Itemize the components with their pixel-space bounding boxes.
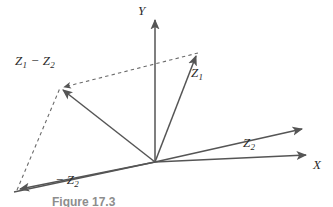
figure-caption: Figure 17.3: [52, 196, 212, 207]
vector-z1-line: [155, 56, 196, 162]
vector-z1-minus-z2-line: [63, 90, 155, 162]
vector-z1-minus-z2-label: Z1 − Z2: [15, 54, 55, 70]
vector-neg-z2-line: [20, 162, 155, 189]
vector-z1-label: Z1: [191, 66, 203, 82]
vector-neg-z2-label: − Z2: [55, 173, 79, 189]
vector-z2-line: [155, 129, 302, 162]
x-axis-label: X: [313, 158, 321, 171]
figure-container: Y X Z1 Z2 − Z2 Z1 − Z2 Figure 17.3: [0, 0, 333, 207]
dashed-line-negz2-to-resultant: [17, 88, 60, 190]
x-axis-line: [155, 155, 306, 162]
vector-z2-label: Z2: [243, 136, 255, 152]
vector-diagram-svg: [0, 0, 333, 207]
dashed-line-z1-to-resultant: [64, 53, 198, 87]
y-axis-label: Y: [138, 4, 145, 17]
